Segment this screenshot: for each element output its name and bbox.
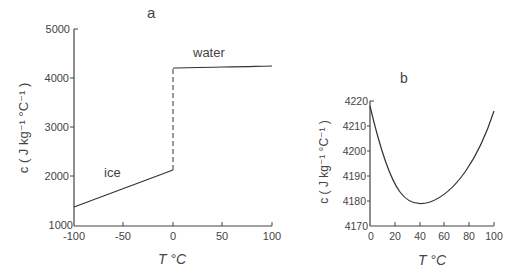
chart-b: b 4220 4210 4200 4190 4180 4170 0 [317, 70, 503, 268]
chart-a-y-label: c ( J kg⁻¹ °C⁻¹ ) [16, 83, 31, 173]
y-tick-label: 3000 [45, 121, 69, 133]
x-tick-label: 40 [414, 230, 426, 242]
x-tick-label: 100 [485, 230, 503, 242]
x-tick-label: 0 [170, 230, 176, 242]
y-tick-label: 5000 [46, 23, 70, 35]
x-tick-label: -50 [115, 230, 131, 242]
chart-b-title: b [400, 70, 408, 86]
y-tick-label: 4200 [343, 145, 367, 157]
chart-a-y-tick-labels: 5000 4000 3000 2000 1000 [45, 23, 73, 231]
x-tick-label: 100 [263, 230, 281, 242]
x-tick-label: 80 [463, 230, 475, 242]
x-tick-label: -100 [63, 230, 85, 242]
y-tick-label: 4210 [343, 120, 367, 132]
chart-b-x-label: T °C [418, 252, 447, 268]
figure: a 5000 4000 3000 2000 1000 -100 -50 [0, 0, 517, 274]
y-tick-label: 4170 [345, 220, 369, 232]
ice-line [74, 170, 173, 207]
x-tick-label: 60 [438, 230, 450, 242]
chart-b-x-tick-labels: 0 20 40 60 80 100 [368, 230, 503, 242]
water-annotation: water [192, 45, 225, 60]
ice-annotation: ice [104, 165, 121, 180]
y-tick-label: 2000 [45, 170, 69, 182]
y-tick-label: 4180 [343, 195, 367, 207]
chart-a: a 5000 4000 3000 2000 1000 -100 -50 [16, 4, 281, 267]
y-tick-label: 4190 [343, 170, 367, 182]
y-tick-label: 4220 [345, 95, 369, 107]
x-tick-label: 0 [368, 230, 374, 242]
water-line [173, 66, 272, 68]
water-heat-capacity-curve [370, 106, 494, 204]
chart-a-x-label: T °C [158, 251, 187, 267]
y-tick-label: 4000 [45, 72, 69, 84]
x-tick-label: 20 [389, 230, 401, 242]
chart-a-x-tick-labels: -100 -50 0 50 100 [63, 230, 281, 242]
chart-b-y-tick-labels: 4220 4210 4200 4190 4180 4170 [343, 95, 369, 232]
x-tick-label: 50 [216, 230, 228, 242]
chart-b-y-label: c ( J kg⁻¹ °C⁻¹ ) [317, 120, 331, 203]
chart-a-title: a [147, 4, 156, 21]
